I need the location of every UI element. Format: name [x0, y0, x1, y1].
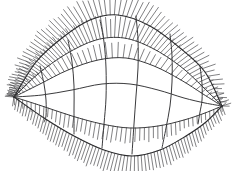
figure-root	[0, 0, 238, 171]
surface-normals-figure	[0, 0, 238, 171]
